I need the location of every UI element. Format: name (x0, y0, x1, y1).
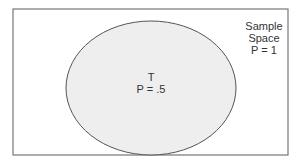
sample-space-prob: P = 1 (234, 44, 294, 56)
sample-space-line2: Space (234, 32, 294, 44)
event-t-label: T P = .5 (121, 71, 181, 95)
sample-space-line1: Sample (234, 20, 294, 32)
event-name: T (121, 71, 181, 83)
event-prob: P = .5 (121, 83, 181, 95)
sample-space-label: Sample Space P = 1 (234, 20, 294, 56)
